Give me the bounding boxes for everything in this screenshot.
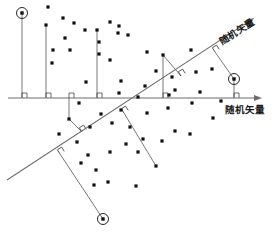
- ra-diag-5-square: [57, 147, 64, 154]
- top-left-marker-dot: [20, 11, 23, 14]
- scatter-dot: [57, 132, 60, 135]
- ra-axis-3: [97, 93, 102, 98]
- perp-below-1: [69, 119, 82, 132]
- scatter-dot: [211, 116, 214, 119]
- scatter-dot: [143, 84, 146, 87]
- scatter-dot: [124, 142, 127, 145]
- scatter-dot: [97, 52, 100, 55]
- scatter-dot: [145, 50, 148, 53]
- scatter-dot: [106, 180, 109, 183]
- scatter-dot: [110, 121, 113, 124]
- right-marker-dot: [232, 77, 235, 80]
- scatter-dot: [79, 161, 82, 164]
- scatter-dot: [119, 79, 122, 82]
- ra-axis-6: [69, 93, 74, 98]
- scatter-dot: [154, 69, 157, 72]
- axis-diagonal: [7, 18, 254, 180]
- scatter-dot: [68, 48, 71, 51]
- scatter-dot: [190, 101, 193, 104]
- scatter-dot: [95, 28, 98, 31]
- scatter-dot: [136, 95, 139, 98]
- emphasized-points-group: [17, 8, 240, 225]
- scatter-dot: [173, 129, 176, 132]
- scatter-dot: [117, 24, 120, 27]
- scatter-dot: [134, 184, 137, 187]
- scatter-dot: [61, 16, 64, 19]
- scatter-dot: [119, 108, 122, 111]
- ra-axis-4: [163, 93, 168, 98]
- scatter-dot: [51, 48, 54, 51]
- ra-diag-1: [178, 69, 185, 76]
- scatter-dot: [63, 36, 66, 39]
- perp-to-diag-2: [215, 52, 234, 79]
- scatter-dot: [116, 31, 119, 34]
- ra-axis-1-square: [22, 93, 27, 98]
- scatter-dot: [67, 117, 70, 120]
- scatter-dot: [108, 150, 111, 153]
- scatter-dot: [198, 90, 201, 93]
- scatter-dot: [108, 20, 111, 23]
- scatter-dot: [94, 168, 97, 171]
- ra-axis-4-square: [163, 93, 168, 98]
- scatter-dot: [44, 23, 47, 26]
- ra-axis-6-square: [69, 93, 74, 98]
- scatter-dot: [72, 21, 75, 24]
- scatter-dot: [117, 91, 120, 94]
- scatter-dot: [86, 153, 89, 156]
- ra-axis-3-square: [97, 93, 102, 98]
- ra-diag-5: [57, 147, 64, 154]
- scatter-dot: [219, 99, 222, 102]
- scatter-dot: [97, 40, 100, 43]
- scatter-dot: [210, 67, 213, 70]
- scatter-dot: [126, 33, 129, 36]
- axis-horizontal-arrowhead: [254, 95, 262, 101]
- scatter-dot: [84, 80, 87, 83]
- ra-axis-2-square: [46, 93, 51, 98]
- scatter-dot: [166, 106, 169, 109]
- ra-axis-2: [46, 93, 51, 98]
- scatter-dot: [46, 5, 49, 8]
- ra-diag-2-square: [212, 45, 219, 52]
- scatter-dot: [141, 137, 144, 140]
- scatter-dot: [136, 150, 139, 153]
- scatter-dot: [75, 140, 78, 143]
- ra-axis-5-square: [234, 93, 239, 98]
- scatter-dot: [77, 101, 80, 104]
- projection-diagram: 随机矢量随机矢量: [0, 0, 279, 235]
- scatter-dot: [173, 88, 176, 91]
- ra-axis-1: [22, 93, 27, 98]
- scatter-dot: [88, 125, 91, 128]
- scatter-dot: [170, 75, 173, 78]
- scatter-dot: [188, 132, 191, 135]
- axis-label-diagonal: 随机矢量: [217, 16, 257, 47]
- scatter-dot: [92, 183, 95, 186]
- scatter-dot: [161, 53, 164, 56]
- scatter-dot: [189, 48, 192, 51]
- axis-label-horizontal: 随机矢量: [225, 104, 265, 115]
- perp-below-2: [124, 113, 156, 166]
- ra-diag-2: [212, 45, 219, 52]
- scatter-dot: [50, 61, 53, 64]
- scatter-dot: [167, 93, 170, 96]
- projection-lines-group: [22, 13, 234, 219]
- perp-to-diag-1: [163, 55, 181, 76]
- diagram-canvas: 随机矢量随机矢量: [0, 0, 279, 235]
- ra-axis-5: [234, 93, 239, 98]
- scatter-dot: [145, 111, 148, 114]
- scatter-dot: [160, 139, 163, 142]
- axis-diagonal-line: [7, 22, 247, 180]
- bottom-marker: [98, 214, 109, 225]
- ra-diag-1-square: [178, 69, 185, 76]
- scatter-dot: [99, 112, 102, 115]
- bottom-marker-dot: [101, 217, 104, 220]
- scatter-dot: [128, 125, 131, 128]
- scatter-dot: [194, 70, 197, 73]
- scatter-dot: [154, 164, 157, 167]
- scatter-dot: [108, 58, 111, 61]
- scatter-dot: [83, 28, 86, 31]
